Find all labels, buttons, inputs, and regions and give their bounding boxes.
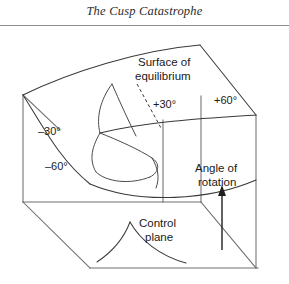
box-edge-bottom-right-diagonal bbox=[201, 202, 256, 268]
angle-of-rotation-arrow bbox=[218, 185, 226, 250]
label-control-plane-line2: plane bbox=[145, 231, 173, 243]
label-angle-plus-30: +30° bbox=[153, 98, 176, 110]
surface-fold-s-lower-branch bbox=[96, 172, 150, 182]
surface-fold-upper bbox=[99, 84, 113, 133]
surface-fold-s-upper-branch bbox=[100, 133, 152, 158]
surface-fold-s-close bbox=[92, 133, 100, 172]
cusp-branch-left bbox=[97, 222, 130, 262]
cusp-catastrophe-diagram: Surface of equilibrium +30° +60° –30° –6… bbox=[0, 0, 289, 284]
label-surface-of-equilibrium-line1: Surface of bbox=[138, 56, 191, 68]
surface-contour-mid bbox=[100, 115, 256, 133]
label-angle-of-rotation-line1: Angle of bbox=[195, 162, 238, 174]
label-angle-plus-60: +60° bbox=[214, 94, 237, 106]
label-angle-of-rotation-line2: rotation bbox=[198, 176, 236, 188]
box-edge-bottom-left-diagonal bbox=[23, 202, 90, 268]
label-angle-minus-30: –30° bbox=[38, 125, 61, 137]
label-control-plane-line1: Control bbox=[139, 217, 176, 229]
label-surface-of-equilibrium-line2: equilibrium bbox=[135, 70, 191, 82]
label-angle-minus-60: –60° bbox=[45, 160, 68, 172]
figure-container: The Cusp Catastrophe bbox=[0, 0, 289, 284]
